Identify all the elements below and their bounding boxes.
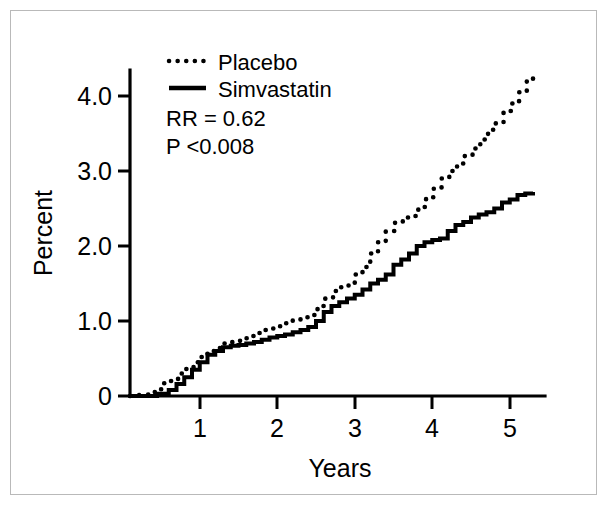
y-tick-label-1: 1.0 (77, 307, 112, 335)
x-tick-label-3: 3 (348, 414, 362, 442)
y-axis-tick-labels: 0 1.0 2.0 3.0 4.0 (77, 82, 112, 410)
legend-label-placebo: Placebo (218, 50, 298, 75)
x-tick-label-5: 5 (503, 414, 517, 442)
y-axis-ticks (118, 96, 130, 396)
kaplan-meier-chart: 0 1.0 2.0 3.0 4.0 1 2 3 4 5 Percent Year… (0, 0, 609, 506)
y-tick-label-3: 3.0 (77, 157, 112, 185)
x-tick-label-4: 4 (425, 414, 439, 442)
legend-label-simvastatin: Simvastatin (218, 77, 332, 102)
x-axis-title: Years (308, 454, 371, 482)
statistics-annotations: RR = 0.62 P <0.008 (166, 106, 266, 159)
y-axis-title: Percent (29, 190, 57, 276)
x-tick-label-2: 2 (270, 414, 284, 442)
y-tick-label-0: 0 (98, 382, 112, 410)
y-tick-label-4: 4.0 (77, 82, 112, 110)
x-axis-tick-labels: 1 2 3 4 5 (193, 414, 517, 442)
x-tick-label-1: 1 (193, 414, 207, 442)
relative-risk-label: RR = 0.62 (166, 106, 266, 131)
figure-container: 0 1.0 2.0 3.0 4.0 1 2 3 4 5 Percent Year… (0, 0, 609, 506)
p-value-label: P <0.008 (166, 134, 254, 159)
series-line-simvastatin (130, 192, 533, 396)
chart-legend: Placebo Simvastatin (169, 50, 332, 102)
x-axis-ticks (200, 396, 510, 409)
y-tick-label-2: 2.0 (77, 232, 112, 260)
